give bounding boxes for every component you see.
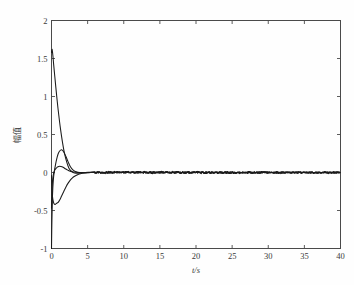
y-tick-label: 1 xyxy=(43,92,47,102)
y-axis-label: 幅值 xyxy=(12,127,22,143)
x-tick-label: 30 xyxy=(264,251,273,261)
x-tick-label: 0 xyxy=(49,251,53,261)
x-tick-label: 5 xyxy=(86,251,90,261)
x-tick-label: 20 xyxy=(192,251,201,261)
y-tick-label: 1.5 xyxy=(37,54,48,64)
x-axis-label: t/s xyxy=(192,265,201,275)
y-tick-label: 0.5 xyxy=(37,130,48,140)
y-tick-label: -1 xyxy=(40,244,47,254)
figure-container: 0510152025303540 -1-0.500.511.52 t/s 幅值 xyxy=(0,0,354,285)
y-tick-label: 0 xyxy=(43,168,47,178)
x-tick-label: 15 xyxy=(156,251,165,261)
x-tick-label: 40 xyxy=(336,251,345,261)
y-tick-label: -0.5 xyxy=(34,206,47,216)
x-tick-label: 10 xyxy=(120,251,129,261)
y-tick-label: 2 xyxy=(43,16,47,26)
x-tick-label: 25 xyxy=(228,251,237,261)
x-tick-label: 35 xyxy=(300,251,309,261)
chart-background xyxy=(0,0,354,285)
line-chart: 0510152025303540 -1-0.500.511.52 t/s 幅值 xyxy=(0,0,354,285)
